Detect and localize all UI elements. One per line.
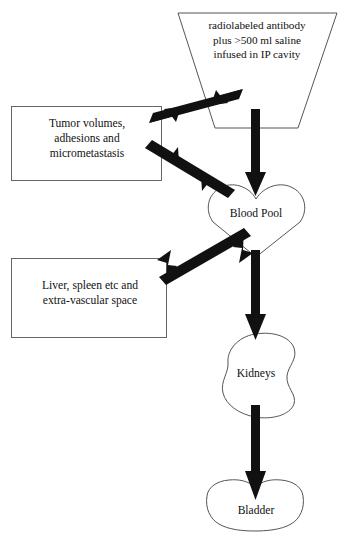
node-tumor-shape — [12, 107, 162, 181]
connector-blood-pool-to-kidneys — [245, 250, 266, 340]
connector-blood-pool-to-liver — [157, 228, 253, 285]
diagram-canvas: radiolabeled antibody plus >500 ml salin… — [0, 0, 339, 542]
diagram-svg — [0, 0, 339, 542]
node-liver-shape — [12, 259, 167, 338]
